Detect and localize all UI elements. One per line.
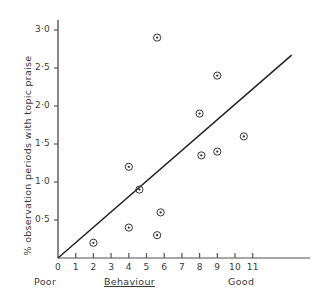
data-point: [214, 72, 221, 79]
data-point-center: [128, 166, 130, 168]
data-point-center: [156, 36, 158, 38]
y-axis-tick-label: 3·0: [18, 24, 50, 34]
data-point-center: [200, 154, 202, 156]
x-axis-tick-label: 11: [243, 262, 263, 272]
x-axis-title: Behaviour: [104, 276, 155, 287]
x-axis-ticks: [76, 253, 253, 258]
x-axis-high-caption: Good: [228, 276, 254, 287]
data-point-series: [90, 34, 248, 246]
plot-canvas: [0, 0, 316, 302]
data-point: [154, 232, 161, 239]
data-point: [125, 163, 132, 170]
data-point-center: [128, 226, 130, 228]
data-point: [240, 133, 247, 140]
data-point-center: [156, 234, 158, 236]
data-point: [90, 239, 97, 246]
x-axis-low-caption: Poor: [34, 276, 56, 287]
data-point-center: [138, 188, 140, 190]
data-point-center: [216, 150, 218, 152]
data-point: [214, 148, 221, 155]
data-point: [125, 224, 132, 231]
data-point: [196, 110, 203, 117]
regression-line: [58, 55, 292, 258]
scatter-plot-figure: 0·51·01·52·02·53·0 01234567891011 % obse…: [0, 0, 316, 302]
data-point: [157, 209, 164, 216]
data-point-center: [92, 242, 94, 244]
data-point: [198, 152, 205, 159]
trend-line: [58, 55, 292, 258]
data-point-center: [160, 211, 162, 213]
data-point-center: [198, 112, 200, 114]
axes: [58, 20, 310, 258]
data-point-center: [243, 135, 245, 137]
data-point-center: [216, 74, 218, 76]
data-point: [154, 34, 161, 41]
y-axis-title: % observation periods with topic praise: [22, 56, 33, 256]
